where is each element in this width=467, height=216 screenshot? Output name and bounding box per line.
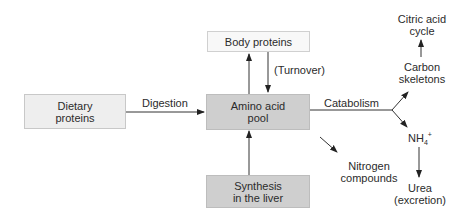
node-label: Body proteins xyxy=(225,36,292,48)
ammonium-superscript: + xyxy=(428,131,432,138)
node-label: Dietary xyxy=(55,100,94,112)
output-label: Carbon xyxy=(396,61,448,73)
node-label: Amino acid xyxy=(231,100,285,112)
ammonium-subscript: 4 xyxy=(424,139,428,146)
node-synthesis-liver: Synthesisin the liver xyxy=(206,175,310,208)
output-nitrogen-compounds: Nitrogen compounds xyxy=(332,160,406,184)
output-label: Nitrogen xyxy=(332,160,406,172)
node-label: in the liver xyxy=(233,192,283,204)
output-ammonium: NH4+ xyxy=(408,129,432,149)
ammonium-label: NH xyxy=(408,132,424,144)
node-body-proteins: Body proteins xyxy=(207,31,310,52)
edge-label-digestion: Digestion xyxy=(142,97,188,109)
output-label: (excretion) xyxy=(394,194,446,206)
output-citric-acid-cycle: Citric acid cycle xyxy=(396,13,448,37)
output-label: Citric acid xyxy=(396,13,448,25)
node-amino-acid-pool: Amino acidpool xyxy=(206,94,310,130)
output-label: skeletons xyxy=(396,73,448,85)
output-urea: Urea (excretion) xyxy=(394,182,446,206)
output-label: cycle xyxy=(396,25,448,37)
output-label: Urea xyxy=(394,182,446,194)
output-carbon-skeletons: Carbon skeletons xyxy=(396,61,448,85)
node-label: proteins xyxy=(55,112,94,124)
node-label: Synthesis xyxy=(233,180,283,192)
edge-label-turnover: (Turnover) xyxy=(274,64,325,76)
edge-label-catabolism: Catabolism xyxy=(324,97,379,109)
node-label: pool xyxy=(231,112,285,124)
node-dietary-proteins: Dietaryproteins xyxy=(24,94,126,129)
